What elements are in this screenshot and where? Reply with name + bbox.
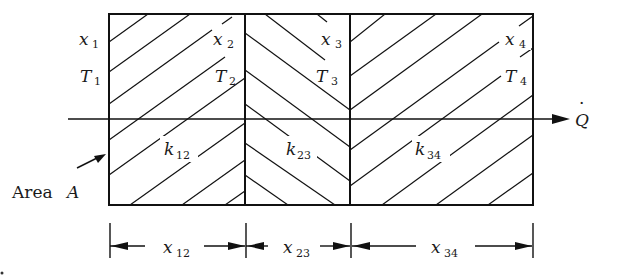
svg-text:23: 23 — [296, 247, 310, 260]
svg-text:T: T — [215, 66, 228, 86]
svg-text:A: A — [65, 182, 79, 202]
interface-2-labels: x 2 T 2 — [213, 29, 236, 88]
svg-text:T: T — [80, 66, 93, 86]
interface-4-labels: x 4 T 4 — [503, 28, 531, 88]
svg-text:x: x — [79, 29, 89, 49]
layer-12-conductivity-label: k 12 — [160, 136, 198, 162]
svg-text:x: x — [321, 29, 331, 49]
interface-3-labels: x 3 T 3 — [316, 29, 342, 88]
svg-text:Area: Area — [11, 182, 53, 202]
svg-text:x: x — [505, 29, 515, 49]
composite-wall-diagram: Q · x 1 T 1 x 2 T 2 x 3 T 3 x 4 T 4 k 12… — [0, 0, 618, 276]
svg-text:T: T — [316, 66, 329, 86]
svg-text:34: 34 — [444, 247, 458, 260]
svg-text:2: 2 — [229, 75, 236, 88]
dimension-x34: x 34 — [352, 237, 532, 260]
svg-text:k: k — [415, 139, 425, 159]
heat-flow-arrow-icon — [552, 114, 570, 124]
scan-artifact-dot — [1, 272, 4, 275]
svg-text:3: 3 — [335, 38, 342, 51]
svg-text:23: 23 — [297, 149, 311, 162]
svg-text:x: x — [213, 29, 223, 49]
svg-text:12: 12 — [176, 247, 190, 260]
svg-text:x: x — [431, 237, 441, 257]
svg-text:1: 1 — [92, 38, 99, 51]
svg-text:k: k — [164, 139, 174, 159]
svg-text:4: 4 — [519, 38, 526, 51]
svg-text:34: 34 — [427, 149, 441, 162]
layer-23-conductivity-label: k 23 — [283, 136, 317, 162]
layer-34-conductivity-label: k 34 — [412, 136, 450, 162]
dimension-x23: x 23 — [246, 237, 350, 260]
svg-text:3: 3 — [331, 75, 338, 88]
dimension-x12: x 12 — [110, 237, 245, 260]
svg-text:1: 1 — [94, 75, 101, 88]
heat-flow-label: Q · — [575, 93, 589, 130]
svg-text:x: x — [283, 237, 293, 257]
svg-text:x: x — [163, 237, 173, 257]
layer-12-hatch — [109, 14, 245, 205]
area-pointer-arrow-icon — [94, 154, 106, 163]
svg-text:T: T — [505, 66, 518, 86]
svg-text:k: k — [286, 139, 296, 159]
interface-1-labels: x 1 T 1 — [79, 29, 101, 88]
svg-text:2: 2 — [227, 38, 234, 51]
svg-text:·: · — [579, 93, 584, 113]
area-label: Area A — [11, 182, 79, 202]
svg-text:4: 4 — [520, 75, 527, 88]
svg-text:Q: Q — [575, 110, 589, 130]
svg-text:12: 12 — [176, 149, 190, 162]
